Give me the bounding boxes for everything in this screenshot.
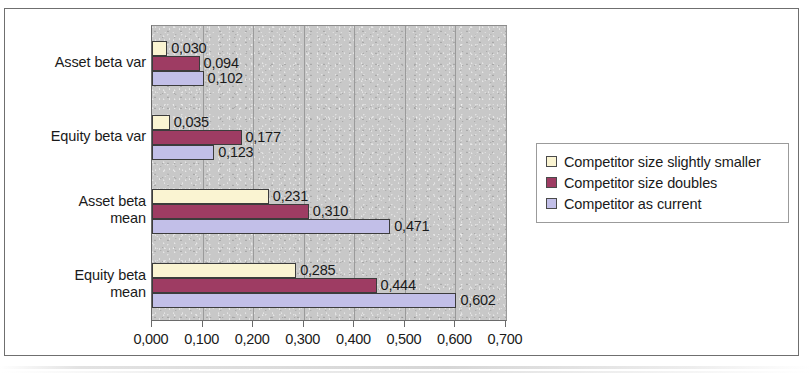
- y-axis-category-label-line: mean: [8, 284, 146, 301]
- legend-color-swatch: [546, 177, 557, 188]
- gridline: [405, 26, 406, 320]
- bar: [152, 204, 309, 219]
- legend-label: Competitor size slightly smaller: [564, 154, 761, 170]
- bar-value-label: 0,102: [208, 71, 243, 86]
- axis-tick-mark: [151, 321, 152, 327]
- y-axis-category-label: Equity beta var: [8, 128, 146, 145]
- bar: [152, 189, 269, 204]
- axis-tick-mark: [303, 321, 304, 327]
- bar: [152, 71, 204, 86]
- axis-tick-mark: [505, 321, 506, 327]
- bar: [152, 145, 214, 160]
- x-axis-tick-label: 0,200: [235, 331, 270, 347]
- x-axis-tick-label: 0,700: [488, 331, 523, 347]
- bar-value-label: 0,602: [460, 293, 495, 308]
- bar-value-label: 0,030: [171, 41, 206, 56]
- bar-value-label: 0,177: [246, 130, 281, 145]
- plot-area: 0,0300,0940,1020,0350,1770,1230,2310,310…: [151, 25, 507, 321]
- legend-label: Competitor size doubles: [564, 175, 717, 191]
- y-axis-category-label: Asset betamean: [8, 193, 146, 227]
- x-axis-tick-label: 0,400: [336, 331, 371, 347]
- gridline: [354, 26, 355, 320]
- axis-tick-mark: [404, 321, 405, 327]
- legend-item: Competitor as current: [546, 193, 780, 214]
- bar: [152, 219, 390, 234]
- bar: [152, 115, 170, 130]
- y-axis-category-label-line: Asset beta: [8, 193, 146, 210]
- chart-legend: Competitor size slightly smallerCompetit…: [536, 143, 789, 223]
- x-axis-tick-label: 0,000: [134, 331, 169, 347]
- legend-color-swatch: [546, 198, 557, 209]
- bar-value-label: 0,285: [300, 263, 335, 278]
- legend-label: Competitor as current: [564, 196, 701, 212]
- bar: [152, 56, 200, 71]
- bar: [152, 278, 377, 293]
- y-axis-category-labels: Asset beta varEquity beta varAsset betam…: [5, 25, 146, 321]
- bar: [152, 293, 456, 308]
- bar: [152, 41, 167, 56]
- bar-value-label: 0,310: [313, 204, 348, 219]
- x-axis-tick-label: 0,600: [437, 331, 472, 347]
- x-axis-tick-label: 0,500: [386, 331, 421, 347]
- x-axis-tick-labels: 0,0000,1000,2000,3000,4000,5000,6000,700: [151, 331, 507, 353]
- bar-value-label: 0,444: [381, 278, 416, 293]
- axis-tick-mark: [252, 321, 253, 327]
- bar-value-label: 0,123: [218, 145, 253, 160]
- x-axis-tick-label: 0,100: [184, 331, 219, 347]
- bar: [152, 263, 296, 278]
- bar: [152, 130, 242, 145]
- y-axis-category-label: Asset beta var: [8, 54, 146, 71]
- bar-value-label: 0,035: [174, 115, 209, 130]
- bar-value-label: 0,471: [394, 219, 429, 234]
- legend-item: Competitor size slightly smaller: [546, 151, 780, 172]
- gridline: [506, 26, 507, 320]
- y-axis-category-label-line: Equity beta: [8, 267, 146, 284]
- scan-artifact-streak-secondary: [0, 371, 811, 373]
- axis-tick-mark: [353, 321, 354, 327]
- x-axis-tick-label: 0,300: [285, 331, 320, 347]
- axis-tick-mark: [202, 321, 203, 327]
- y-axis-category-label-line: mean: [8, 210, 146, 227]
- bar-value-label: 0,094: [204, 56, 239, 71]
- legend-item: Competitor size doubles: [546, 172, 780, 193]
- chart-frame: Asset beta varEquity beta varAsset betam…: [4, 8, 799, 356]
- legend-color-swatch: [546, 156, 557, 167]
- y-axis-category-label: Equity betamean: [8, 267, 146, 301]
- axis-tick-mark: [454, 321, 455, 327]
- bar-value-label: 0,231: [273, 189, 308, 204]
- gridline: [455, 26, 456, 320]
- scan-artifact-streak: [0, 366, 811, 369]
